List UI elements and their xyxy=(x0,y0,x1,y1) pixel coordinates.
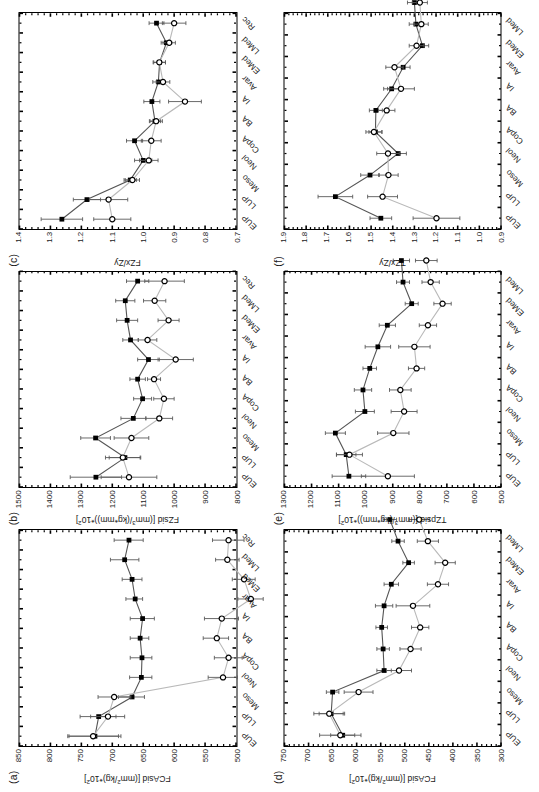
marker-open-circle xyxy=(109,216,114,221)
marker-open-circle xyxy=(411,345,416,350)
x-category-label: CopA xyxy=(503,125,525,147)
x-category-label: IA xyxy=(239,611,252,624)
x-category-label: IA xyxy=(503,598,516,611)
y-tick-label: 1.4 xyxy=(14,232,23,243)
y-tick-label: 1.3 xyxy=(409,232,418,243)
marker-open-circle xyxy=(171,20,176,25)
marker-filled-square xyxy=(346,474,351,479)
marker-filled-square xyxy=(360,388,365,393)
marker-filled-square xyxy=(154,20,159,25)
y-tick-label: 800 xyxy=(232,490,241,503)
x-category-label: LMed xyxy=(503,533,525,555)
marker-open-circle xyxy=(424,539,429,544)
marker-filled-square xyxy=(372,108,377,113)
marker-filled-square xyxy=(378,625,383,630)
marker-open-circle xyxy=(120,455,125,460)
marker-open-circle xyxy=(165,318,170,323)
marker-filled-square xyxy=(329,690,334,695)
marker-filled-square xyxy=(332,194,337,199)
x-category-label: LMed xyxy=(239,293,261,315)
marker-open-circle xyxy=(424,323,429,328)
marker-filled-square xyxy=(122,299,127,304)
marker-filled-square xyxy=(84,197,89,202)
marker-open-circle xyxy=(384,151,389,156)
x-category-label: IA xyxy=(239,353,252,366)
x-category-label: CopA xyxy=(503,642,525,664)
marker-open-circle xyxy=(146,157,151,162)
panel-e-ylabel: TZpsid [(mm3/(kg*mm))*102] xyxy=(283,514,502,527)
x-category-label: LUP xyxy=(503,449,521,467)
marker-open-circle xyxy=(126,475,131,480)
y-tick-label: 650 xyxy=(327,749,336,762)
marker-open-circle xyxy=(173,357,178,362)
marker-filled-square xyxy=(384,323,389,328)
marker-filled-square xyxy=(124,318,129,323)
panel-a: (a) FCAsid [(mm2/kg)*102] 85080075070065… xyxy=(6,527,271,786)
marker-open-circle xyxy=(409,603,414,608)
y-tick-label: 1.3 xyxy=(45,232,54,243)
x-category-label: LMed xyxy=(239,35,261,57)
x-category-label: LUP xyxy=(239,710,257,728)
marker-open-circle xyxy=(346,452,351,457)
marker-open-circle xyxy=(413,43,418,48)
marker-open-circle xyxy=(156,416,161,421)
panel-c-ylabel: FZx/Zy xyxy=(18,256,237,269)
y-tick-label: 300 xyxy=(497,749,506,762)
x-category-label: LMed xyxy=(503,274,525,296)
y-tick-label: 0.9 xyxy=(170,232,179,243)
panel-d-ylabel: FCAsid [(mm2/kg)*102] xyxy=(283,773,502,786)
x-category-label: BA xyxy=(503,362,518,377)
marker-open-circle xyxy=(434,582,439,587)
panel-c-yticks: 1.41.31.21.11.00.90.80.7 xyxy=(18,230,237,256)
x-category-label: LUP xyxy=(239,193,257,211)
x-category-label: EMed xyxy=(503,38,525,60)
marker-open-circle xyxy=(417,625,422,630)
y-tick-label: 900 xyxy=(387,490,396,503)
marker-open-circle xyxy=(442,560,447,565)
x-category-label: LUP xyxy=(239,452,257,470)
marker-open-circle xyxy=(326,711,331,716)
x-category-label: EUP xyxy=(239,730,258,749)
y-tick-label: 900 xyxy=(201,490,210,503)
panel-f-tag: (f) xyxy=(271,256,283,267)
x-category-label: BA xyxy=(239,114,254,129)
y-tick-label: 1.1 xyxy=(453,232,462,243)
x-category-label: CopA xyxy=(239,392,261,414)
x-category-label: Avar xyxy=(239,74,258,93)
marker-open-circle xyxy=(413,366,418,371)
y-tick-label: 750 xyxy=(278,749,287,762)
x-category-label: LUP xyxy=(503,707,521,725)
x-category-label: EUP xyxy=(503,729,522,748)
marker-open-circle xyxy=(401,409,406,414)
marker-filled-square xyxy=(408,302,413,307)
y-tick-label: 1100 xyxy=(138,490,147,507)
panel-d-yticks: 750700650600550500450400350300 xyxy=(283,747,502,773)
marker-open-circle xyxy=(385,172,390,177)
panel-c-plot: FZx/Zy 1.41.31.21.11.00.90.80.7 EUPLUPMe… xyxy=(18,12,271,269)
marker-open-circle xyxy=(397,388,402,393)
marker-filled-square xyxy=(139,655,144,660)
marker-open-circle xyxy=(225,538,230,543)
marker-open-circle xyxy=(416,0,421,5)
y-tick-label: 500 xyxy=(497,490,506,503)
marker-open-circle xyxy=(153,118,158,123)
y-tick-label: 1400 xyxy=(45,490,54,508)
x-category-label: Neol xyxy=(239,671,258,690)
x-category-label: Neol xyxy=(503,146,522,165)
panel-e-frame xyxy=(283,271,502,489)
marker-open-circle xyxy=(225,655,230,660)
marker-open-circle xyxy=(433,215,438,220)
marker-filled-square xyxy=(395,539,400,544)
x-category-label: EMed xyxy=(239,572,261,594)
panel-a-plot: FCAsid [(mm2/kg)*102] 850800750700650600… xyxy=(18,529,271,786)
y-tick-label: 1.2 xyxy=(76,232,85,243)
marker-open-circle xyxy=(427,280,432,285)
marker-filled-square xyxy=(140,397,145,402)
panel-f-ylabel: TZx/Zy xyxy=(283,256,502,269)
x-category-label: Avar xyxy=(503,577,522,596)
panel-c: (c) FZx/Zy 1.41.31.21.11.00.90.80.7 EUPL… xyxy=(6,10,271,269)
y-tick-label: 1100 xyxy=(333,490,342,507)
x-category-label: BA xyxy=(503,620,518,635)
panel-b-frame xyxy=(18,271,237,489)
x-category-label: Rec xyxy=(239,274,257,292)
